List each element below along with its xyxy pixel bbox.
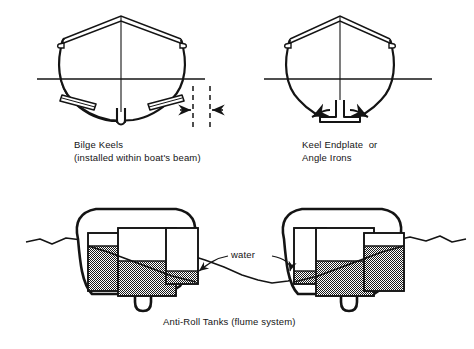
caption-bilge-keels-line2: (installed within boat's beam) bbox=[74, 152, 201, 163]
caption-anti-roll-tanks: Anti-Roll Tanks (flume system) bbox=[163, 316, 296, 329]
gunwale-end-stbd-right bbox=[389, 43, 395, 48]
panel-keel-endplate bbox=[264, 16, 432, 122]
boat-right bbox=[283, 209, 404, 311]
label-water: water bbox=[231, 249, 255, 262]
boat-left bbox=[77, 209, 198, 311]
stabilization-diagram bbox=[0, 0, 474, 349]
caption-keel-endplate-line1: Keel Endplate or bbox=[302, 139, 377, 150]
deck-peak-left bbox=[63, 16, 181, 39]
caption-bilge-keels-line1: Bilge Keels bbox=[74, 139, 123, 150]
tank-starboard-right bbox=[364, 233, 404, 291]
caption-keel-endplate-line2: Angle Irons bbox=[302, 152, 352, 163]
gunwale-end-port-left bbox=[58, 43, 64, 48]
gunwale-end-port-right bbox=[285, 43, 291, 48]
panel-bilge-keels bbox=[37, 16, 223, 128]
figure-canvas: Bilge Keels (installed within boat's bea… bbox=[0, 0, 474, 349]
gunwale-end-stbd-left bbox=[180, 43, 186, 48]
caption-bilge-keels: Bilge Keels (installed within boat's bea… bbox=[74, 139, 201, 164]
caption-keel-endplate: Keel Endplate or Angle Irons bbox=[302, 139, 377, 164]
